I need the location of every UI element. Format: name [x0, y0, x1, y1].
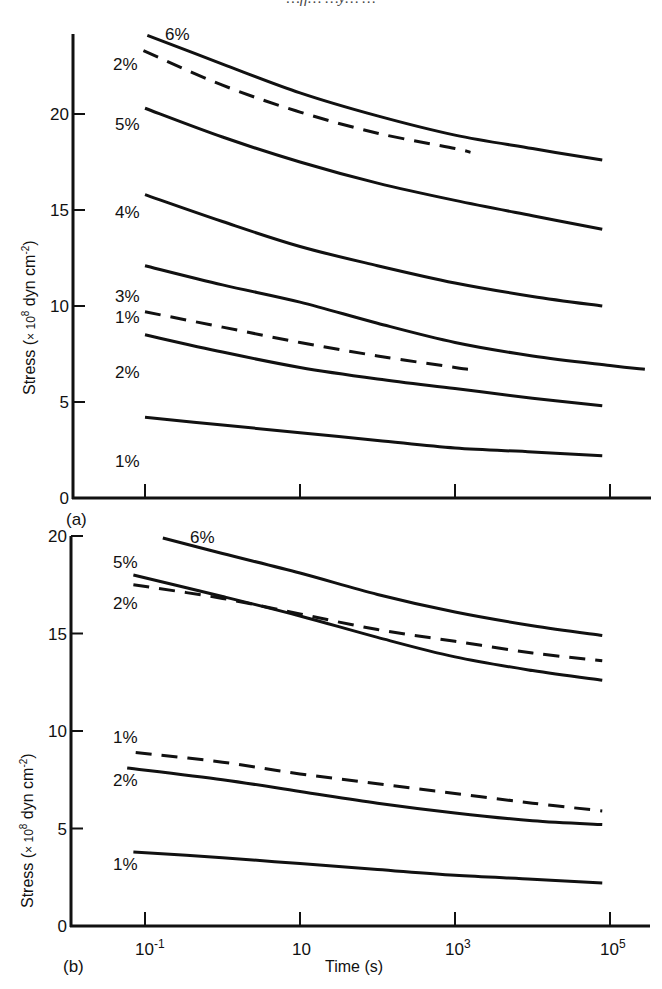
stress-relaxation-chart: 05101520 6%2%5%4%3%1%2%1% (a) 05101520 6…: [0, 0, 662, 989]
curve-1pct-dashed: [145, 312, 471, 370]
curve-6pct-solid: [147, 35, 602, 160]
curve-label: 4%: [115, 203, 140, 222]
curve-5pct-solid: [145, 108, 602, 229]
y-tick-label: 0: [60, 489, 69, 508]
x-tick-labels: 10-110103105: [135, 937, 626, 959]
y-tick-label: 5: [60, 393, 69, 412]
y-tick-label: 20: [50, 105, 69, 124]
curve-2pct-solid: [127, 768, 602, 825]
curve-4pct-solid: [145, 195, 602, 306]
curve-label: 2%: [113, 771, 138, 790]
x-tick-label: 10: [292, 940, 311, 959]
x-tick-label: 103: [445, 937, 471, 959]
curve-2pct-dashed: [133, 585, 602, 661]
curve-label: 2%: [113, 594, 138, 613]
curve-label: 2%: [115, 363, 140, 382]
curve-label: 1%: [113, 728, 138, 747]
curve-label: 1%: [115, 308, 140, 327]
panel-a-axes: [72, 34, 651, 499]
curve-label: 5%: [115, 115, 140, 134]
y-tick-label: 20: [48, 527, 67, 546]
x-tick-label: 105: [600, 937, 626, 959]
panel-b-y-axis-label: Stress (× 108 dyn cm-2): [18, 753, 36, 908]
y-tick-label: 10: [48, 722, 67, 741]
curve-label: 6%: [190, 528, 215, 547]
y-tick-label: 10: [50, 297, 69, 316]
panel-a-y-axis-label: Stress (× 108 dyn cm-2): [20, 240, 38, 395]
y-tick-label: 0: [58, 917, 67, 936]
panel-b-curve-labels: 6%5%2%1%2%1%: [113, 528, 215, 874]
curve-label: 2%: [113, 55, 138, 74]
panel-a-label: (a): [66, 510, 87, 529]
panel-b-curves: [127, 538, 602, 883]
curve-label: 1%: [115, 452, 140, 471]
curve-label: 6%: [165, 25, 190, 44]
y-tick-label: 15: [50, 201, 69, 220]
curve-6pct-solid: [163, 538, 602, 636]
x-axis-label: Time (s): [325, 958, 383, 975]
y-tick-label: 15: [48, 625, 67, 644]
curve-2pct-solid: [145, 335, 602, 406]
panel-a-curve-labels: 6%2%5%4%3%1%2%1%: [113, 25, 190, 471]
panel-a-ticks: 05101520: [50, 105, 610, 508]
curve-1pct-solid: [145, 417, 602, 455]
curve-label: 5%: [113, 553, 138, 572]
curve-1pct-solid: [133, 852, 602, 883]
curve-label: 1%: [113, 855, 138, 874]
curve-2pct-dashed: [143, 51, 470, 153]
panel-a-curves: [143, 35, 644, 455]
curve-label: 3%: [115, 287, 140, 306]
y-tick-label: 5: [58, 820, 67, 839]
x-tick-label: 10-1: [135, 937, 165, 959]
curve-3pct-solid: [145, 266, 645, 370]
panel-b-label: (b): [63, 957, 84, 976]
